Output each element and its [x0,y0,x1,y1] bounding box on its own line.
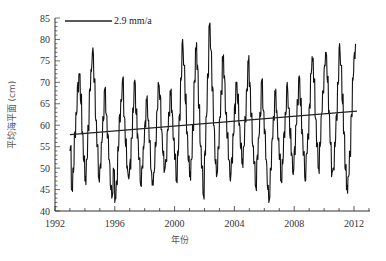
y-tick-label: 50 [40,163,50,174]
x-ticks: 199219962000200420082012 [45,206,369,229]
x-tick-label: 2004 [224,218,244,229]
chart: 40455055606570758085 1992199620002004200… [0,0,386,261]
y-tick-label: 85 [40,13,50,24]
y-ticks: 40455055606570758085 [40,13,60,217]
x-tick-label: 2000 [165,218,185,229]
y-tick-label: 80 [40,34,50,45]
x-axis-title: 年份 [171,234,189,245]
x-tick-label: 2012 [344,218,364,229]
x-tick-label: 2008 [284,218,304,229]
sea-level-series [70,23,356,202]
y-tick-label: 45 [40,184,50,195]
y-tick-label: 75 [40,55,50,66]
y-tick-label: 70 [40,77,50,88]
x-tick-label: 1992 [45,218,65,229]
x-tick-label: 1996 [105,218,125,229]
y-axis-title: 平均海平面 (cm) [6,81,17,150]
legend-label: 2.9 mm/a [114,15,152,26]
legend: 2.9 mm/a [65,15,152,26]
y-tick-label: 55 [40,141,50,152]
sea-level-line [70,23,356,202]
y-tick-label: 40 [40,206,50,217]
y-tick-label: 60 [40,120,50,131]
y-tick-label: 65 [40,98,50,109]
